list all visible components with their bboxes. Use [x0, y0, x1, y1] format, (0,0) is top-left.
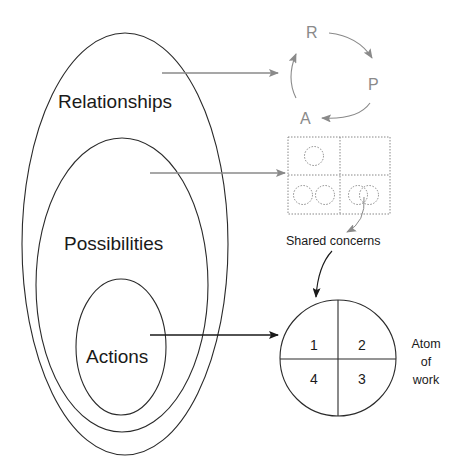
rpa-cycle: R P A	[291, 24, 379, 127]
grid-circle-pair-right	[316, 186, 335, 205]
a-to-r-arrow	[291, 54, 296, 98]
atom-label-line-2: of	[421, 355, 432, 369]
grid-circle-pair-left	[294, 186, 313, 205]
possibilities-ellipse	[36, 138, 208, 432]
atom-label-line-3: work	[412, 373, 440, 387]
quadrant-1: 1	[310, 337, 318, 353]
cycle-node-a: A	[300, 110, 311, 127]
quadrant-4: 4	[310, 371, 318, 387]
cycle-node-r: R	[306, 24, 318, 41]
possibilities-label: Possibilities	[64, 233, 163, 254]
grid-circle-single	[305, 147, 324, 166]
grid-circle-overlap-right	[360, 186, 379, 205]
quadrant-3: 3	[358, 371, 366, 387]
possibilities-grid	[288, 137, 390, 214]
shared-concerns-to-atom-arrow	[316, 251, 332, 297]
connectors	[150, 73, 285, 335]
shared-concerns-label: Shared concerns	[286, 234, 381, 248]
actions-label: Actions	[86, 346, 148, 367]
atom-label-line-1: Atom	[411, 337, 440, 351]
atom-of-work: 1 2 4 3 Atom of work	[280, 300, 441, 416]
nested-sets: Relationships Possibilities Actions	[22, 33, 228, 455]
cycle-node-p: P	[368, 76, 379, 93]
diagram-canvas: Relationships Possibilities Actions R P …	[0, 0, 466, 471]
r-to-p-arrow	[329, 33, 372, 58]
relationships-label: Relationships	[58, 91, 172, 112]
p-to-a-arrow	[322, 103, 370, 118]
quadrant-2: 2	[358, 337, 366, 353]
